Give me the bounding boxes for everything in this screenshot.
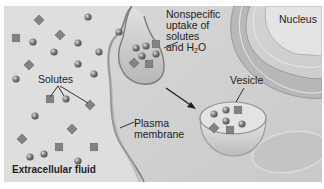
pinocytosis-diagram: Nonspecific uptake of solutes and H2O Nu… (4, 6, 322, 182)
diagram-artwork (4, 6, 322, 182)
extracellular-fluid-label: Extracellular fluid (12, 164, 96, 175)
nonspecific-uptake-label: Nonspecific uptake of solutes and H2O (166, 9, 220, 53)
nonspecific-line4: and H2O (166, 42, 220, 53)
nucleus-label: Nucleus (279, 14, 317, 25)
solutes-label: Solutes (38, 74, 73, 85)
plasma-membrane-label: Plasma membrane (134, 118, 184, 140)
plasma-membrane-line2: membrane (134, 129, 184, 140)
vesicle-label: Vesicle (230, 75, 263, 86)
